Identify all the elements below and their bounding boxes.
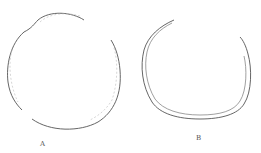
panel-label-b: B <box>196 134 201 142</box>
outline-drawing-b <box>130 0 261 153</box>
panel-label-a: A <box>40 140 45 148</box>
panel-b: B <box>130 0 261 153</box>
panel-a: A <box>0 0 130 153</box>
outline-drawing-a <box>0 0 130 153</box>
